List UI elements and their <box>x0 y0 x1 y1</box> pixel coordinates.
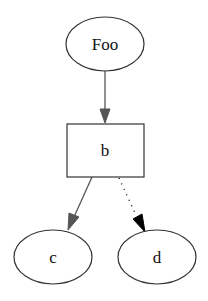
node-b-label: b <box>101 141 110 160</box>
edge-b-to-c <box>68 177 92 230</box>
node-b[interactable]: b <box>67 124 144 177</box>
node-c[interactable]: c <box>14 230 92 284</box>
edge-b-to-d <box>119 178 145 232</box>
node-d[interactable]: d <box>118 230 196 284</box>
graph-canvas: Foo b c d <box>0 0 208 301</box>
node-d-label: d <box>153 248 162 267</box>
node-foo[interactable]: Foo <box>66 17 144 71</box>
node-c-label: c <box>49 248 57 267</box>
node-foo-label: Foo <box>92 35 118 54</box>
edge-foo-to-b <box>100 71 110 123</box>
